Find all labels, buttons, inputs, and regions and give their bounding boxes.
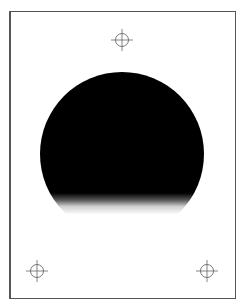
crosshair-icon	[195, 259, 219, 283]
black-disc	[40, 72, 204, 236]
crosshair-icon	[25, 259, 49, 283]
crosshair-icon	[110, 28, 134, 52]
